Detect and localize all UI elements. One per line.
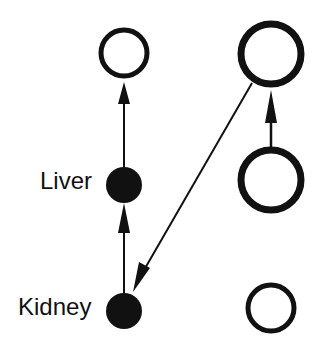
node-liver	[106, 167, 142, 203]
node-kidney	[106, 293, 142, 329]
label-kidney: Kidney	[18, 295, 91, 319]
label-liver: Liver	[40, 169, 92, 193]
